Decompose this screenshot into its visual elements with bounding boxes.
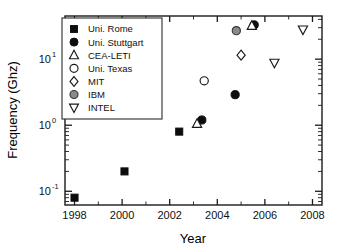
data-series-uni-texas [200,77,208,85]
data-point [71,194,78,201]
chart-legend: Uni. RomeUni. StuttgartCEA-LETIUni. Texa… [62,18,162,119]
legend-label: Uni. Rome [88,23,133,34]
x-tick-label: 2008 [300,209,324,221]
svg-text:10: 10 [39,119,51,131]
svg-text:10: 10 [39,185,51,197]
x-tick-label: 1998 [62,209,86,221]
svg-text:-1: -1 [52,182,59,191]
x-axis-title: Year [180,231,207,246]
legend-item-ibm: IBM [70,89,105,100]
legend-label: Uni. Texas [88,63,132,74]
legend-label: IBM [88,89,105,100]
legend-marker-square-icon [71,26,78,33]
frequency-vs-year-scatter-chart: 199820002002200420062008 10-1100101 Year… [0,0,346,252]
x-tick-label: 2006 [253,209,277,221]
data-point [176,128,183,135]
legend-label: CEA-LETI [88,50,131,61]
x-tick-label: 2004 [205,209,229,221]
y-axis-title: Frequency (Ghz) [5,61,20,159]
data-point [200,77,208,85]
legend-marker-circle-icon [70,38,78,46]
legend-marker-circle-icon [70,91,78,99]
data-point [231,91,239,99]
data-series-ibm [232,27,240,35]
x-tick-label: 2002 [157,209,181,221]
x-tick-label: 2000 [110,209,134,221]
svg-text:0: 0 [52,116,56,125]
legend-item-mit: MIT [70,76,105,87]
svg-text:10: 10 [39,53,51,65]
svg-text:1: 1 [52,50,56,59]
legend-label: INTEL [88,102,115,113]
legend-marker-circle-icon [70,64,78,72]
chart-canvas: 199820002002200420062008 10-1100101 Year… [0,0,346,252]
legend-label: Uni. Stuttgart [88,37,144,48]
data-point [121,168,128,175]
legend-label: MIT [88,76,105,87]
data-point [232,27,240,35]
